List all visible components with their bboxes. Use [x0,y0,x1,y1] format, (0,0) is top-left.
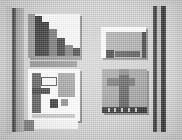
window-status-bar [32,114,75,118]
window-block-light [61,99,68,106]
thumbnail-top-left[interactable] [28,14,80,58]
right-margin-outer-bar [166,4,176,134]
bottom-left-white-strip [34,120,78,129]
thumbnail-body [102,69,147,113]
window-client-area [106,32,146,58]
step-bar-4 [57,38,65,56]
left-margin-gray-rule [16,8,24,132]
window-scrollbar[interactable] [142,32,146,58]
window-block-dark [50,99,58,108]
thumbnail-bottom-right[interactable] [102,69,147,113]
thumbnail-body [28,69,80,121]
thumbnail-caption-strip [30,61,77,67]
window-icon [106,50,114,58]
window-menu-bar [32,88,50,94]
window-toolbar-strip [115,51,140,57]
bottom-left-shade [24,120,34,131]
thumbnail-top-right[interactable] [101,27,146,58]
screenshot-root [0,0,182,140]
footer-tick [135,108,137,112]
step-bar-2 [42,22,49,56]
step-bar-3 [49,29,57,56]
chart-y-axis [28,14,35,58]
step-bar-6 [73,48,80,56]
image-footer-bar [102,107,147,113]
image-top-notch [119,69,129,75]
thumbnail-bottom-left[interactable] [28,69,80,121]
footer-tick [108,108,110,112]
step-bar-5 [65,45,73,56]
footer-tick [128,108,130,112]
window-text-field[interactable] [41,77,57,86]
thumbnail-body [28,14,80,58]
window-right-pane [58,73,75,97]
footer-tick [114,108,116,112]
thumbnail-body [101,27,146,58]
step-bar-1 [35,16,42,56]
footer-tick [121,108,123,112]
